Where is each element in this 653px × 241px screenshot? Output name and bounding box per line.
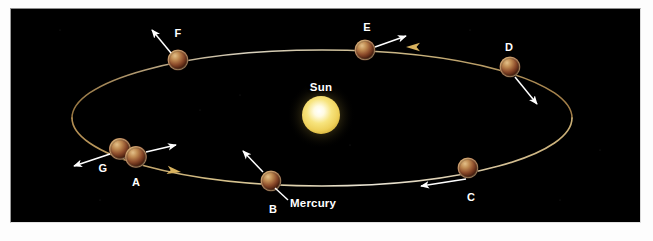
planet-F[interactable] bbox=[152, 30, 189, 71]
mercury-label: Mercury bbox=[290, 198, 336, 209]
planet-A[interactable] bbox=[125, 145, 176, 168]
planet-A-rim bbox=[125, 146, 147, 168]
planet-F-rotation-arrow bbox=[152, 30, 171, 53]
planet-label-E: E bbox=[363, 22, 371, 33]
planet-C-rim bbox=[458, 158, 479, 179]
planet-B-rotation-arrow bbox=[243, 151, 263, 172]
planet-B[interactable] bbox=[243, 151, 288, 200]
planet-E-rim bbox=[355, 40, 376, 61]
planet-E[interactable] bbox=[355, 36, 407, 61]
figure-container: Sun Mercury F E D C B G A bbox=[0, 0, 653, 241]
planet-C[interactable] bbox=[421, 158, 479, 187]
planet-label-C: C bbox=[467, 192, 475, 203]
sun-disc bbox=[302, 96, 340, 134]
orbit-diagram-svg bbox=[10, 8, 641, 223]
diagram-black-panel: Sun Mercury F E D C B G A bbox=[10, 8, 641, 223]
planet-E-rotation-arrow bbox=[375, 36, 406, 47]
planet-label-G: G bbox=[99, 163, 108, 174]
planet-D-rim bbox=[500, 57, 521, 78]
planet-label-A: A bbox=[132, 177, 140, 188]
planet-label-B: B bbox=[269, 204, 277, 215]
orbit-direction-arrow-top bbox=[406, 43, 420, 51]
planet-A-rotation-arrow bbox=[146, 145, 176, 152]
planet-label-D: D bbox=[505, 42, 513, 53]
planet-B-rim bbox=[261, 171, 282, 192]
mercury-leader-line bbox=[275, 188, 288, 200]
planet-label-F: F bbox=[175, 28, 182, 39]
sun-label: Sun bbox=[310, 82, 332, 93]
